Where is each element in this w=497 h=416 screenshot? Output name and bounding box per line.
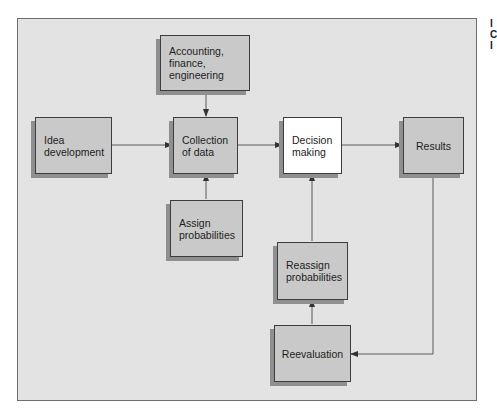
node-decision-making: Decision making — [283, 117, 342, 174]
node-collection-of-data: Collection of data — [173, 117, 238, 174]
node-label: Accounting, finance, engineering — [169, 45, 224, 81]
node-label: Reevaluation — [282, 348, 343, 360]
node-accounting: Accounting, finance, engineering — [160, 35, 250, 91]
node-assign-probabilities: Assign probabilities — [170, 200, 243, 257]
node-label: Idea development — [44, 134, 104, 158]
node-reevaluation: Reevaluation — [274, 325, 351, 382]
node-label: Decision making — [292, 134, 332, 158]
node-reassign-probabilities: Reassign probabilities — [277, 242, 348, 300]
node-label: Collection of data — [182, 134, 228, 158]
cropped-side-text: I C I — [490, 18, 497, 51]
node-results: Results — [403, 117, 464, 174]
node-idea-development: Idea development — [35, 117, 112, 174]
edge-results-reevaluation — [351, 174, 433, 354]
node-label: Assign probabilities — [179, 217, 235, 241]
node-label: Reassign probabilities — [286, 259, 342, 283]
node-label: Results — [416, 140, 451, 152]
